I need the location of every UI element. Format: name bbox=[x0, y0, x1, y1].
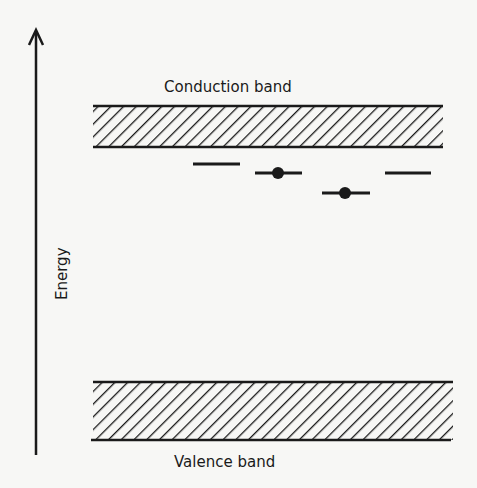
energy-levels bbox=[193, 164, 431, 199]
energy-axis-label: Energy bbox=[53, 247, 71, 300]
conduction-band-label: Conduction band bbox=[164, 78, 292, 96]
valence-band-label: Valence band bbox=[174, 453, 275, 471]
conduction-band bbox=[93, 106, 443, 147]
electron-dot-icon bbox=[339, 187, 351, 199]
electron-dot-icon bbox=[272, 167, 284, 179]
energy-axis bbox=[29, 30, 43, 455]
band-diagram: Energy Conduction band Valence band bbox=[0, 0, 477, 488]
valence-band bbox=[91, 382, 453, 440]
